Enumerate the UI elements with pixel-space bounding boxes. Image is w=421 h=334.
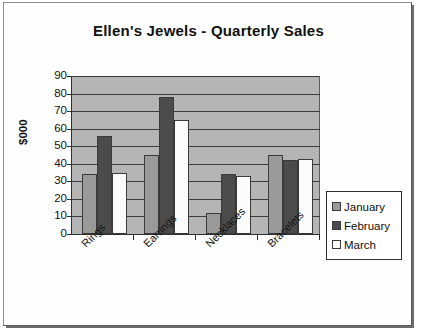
y-axis-tick-mark [67, 164, 72, 165]
plot-right-edge [319, 76, 320, 234]
legend-item-february[interactable]: February [332, 216, 397, 235]
y-axis-tick-label: 70 [43, 105, 67, 117]
plot-area [71, 76, 320, 235]
y-axis-tick-label: 60 [43, 123, 67, 135]
legend-item-label: February [344, 220, 390, 232]
y-axis-tick-label: 40 [43, 158, 67, 170]
y-axis-tick-mark [67, 216, 72, 217]
bar-rings-february[interactable] [97, 136, 112, 234]
legend-item-label: March [344, 239, 376, 251]
bar-rings-march[interactable] [112, 173, 127, 234]
y-axis-tick-label: 10 [43, 210, 67, 222]
x-axis-tick-mark [133, 235, 134, 240]
x-axis-tick-mark [257, 235, 258, 240]
y-axis-tick-label: 20 [43, 193, 67, 205]
chart-title: Ellen's Jewels - Quarterly Sales [4, 22, 413, 39]
legend-item-label: January [344, 201, 385, 213]
frame-shadow-bottom [6, 326, 414, 328]
chart-container: Ellen's Jewels - Quarterly Sales $000 90… [3, 2, 412, 326]
y-axis-tick-label: 80 [43, 88, 67, 100]
plot-top-edge [72, 76, 320, 77]
y-axis-tick-label: 30 [43, 175, 67, 187]
y-axis-tick-mark [67, 199, 72, 200]
chart-legend: JanuaryFebruaryMarch [326, 191, 402, 260]
legend-swatch-icon [332, 240, 341, 249]
legend-item-january[interactable]: January [332, 197, 397, 216]
y-axis-tick-mark [67, 76, 72, 77]
y-axis-tick-mark [67, 234, 72, 235]
bar-earrings-january[interactable] [144, 155, 159, 234]
gridline [72, 129, 320, 130]
y-axis-tick-mark [67, 111, 72, 112]
legend-swatch-icon [332, 202, 341, 211]
gridline [72, 111, 320, 112]
y-axis-tick-mark [67, 181, 72, 182]
y-axis-tick-label: 0 [43, 228, 67, 240]
x-axis-tick-mark [319, 235, 320, 240]
frame-shadow-right [412, 5, 414, 328]
y-axis-tick-mark [67, 146, 72, 147]
legend-item-march[interactable]: March [332, 235, 397, 254]
y-axis-tick-mark [67, 129, 72, 130]
y-axis-tick-label: 90 [43, 70, 67, 82]
y-axis-tick-mark [67, 94, 72, 95]
gridline [72, 94, 320, 95]
y-axis-tick-label: 50 [43, 140, 67, 152]
bar-bracelets-january[interactable] [268, 155, 283, 234]
y-axis-title: $000 [17, 129, 29, 145]
legend-swatch-icon [332, 221, 341, 230]
y-axis-tick-labels: 9080706050403020100 [38, 76, 67, 234]
x-axis-tick-mark [195, 235, 196, 240]
